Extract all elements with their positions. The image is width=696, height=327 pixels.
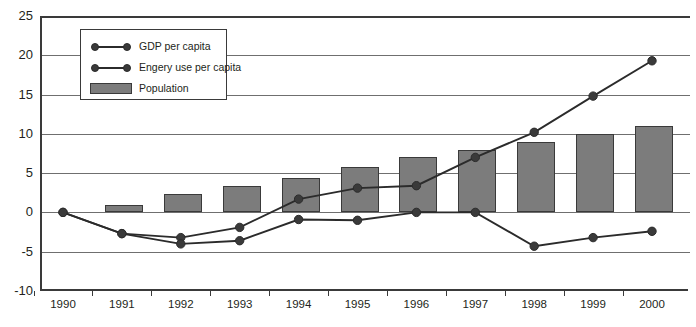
legend-label-population: Population bbox=[139, 83, 189, 94]
bar-1997 bbox=[458, 150, 496, 213]
x-tick-label-1995: 1995 bbox=[328, 298, 388, 310]
x-tick-label-1992: 1992 bbox=[151, 298, 211, 310]
bar-2000 bbox=[635, 126, 673, 212]
line-marker-icon bbox=[90, 62, 132, 73]
bar-1996 bbox=[399, 157, 437, 213]
bar-1998 bbox=[517, 142, 555, 213]
x-tick-label-1994: 1994 bbox=[269, 298, 329, 310]
gridline bbox=[42, 212, 690, 213]
y-tick-label: 10 bbox=[0, 127, 33, 140]
legend-item-population: Population bbox=[81, 78, 226, 99]
x-tick bbox=[505, 291, 506, 296]
y-tick-label: 20 bbox=[0, 48, 33, 61]
y-tick-label: 0 bbox=[0, 205, 33, 218]
x-tick bbox=[92, 291, 93, 296]
x-tick bbox=[446, 291, 447, 296]
y-tick-label: -5 bbox=[0, 245, 33, 258]
legend-label-gdp-per-capita: GDP per capita bbox=[139, 41, 211, 52]
y-tick-label: -10 bbox=[0, 284, 33, 297]
y-tick-label: 5 bbox=[0, 166, 33, 179]
bar-1993 bbox=[223, 186, 261, 213]
y-tick-label: 15 bbox=[0, 88, 33, 101]
bar-1992 bbox=[164, 194, 202, 212]
x-tick-label-1993: 1993 bbox=[210, 298, 270, 310]
x-tick-label-2000: 2000 bbox=[622, 298, 682, 310]
x-tick-label-1999: 1999 bbox=[563, 298, 623, 310]
chart-legend: GDP per capita Engery use per capita Pop… bbox=[80, 29, 227, 100]
x-tick bbox=[387, 291, 388, 296]
filled-rect-icon bbox=[90, 83, 132, 94]
x-tick-label-1998: 1998 bbox=[504, 298, 564, 310]
bar-1995 bbox=[341, 167, 379, 213]
gridline bbox=[42, 252, 690, 253]
x-tick bbox=[34, 291, 35, 296]
gridline bbox=[42, 16, 690, 18]
x-tick-label-1997: 1997 bbox=[445, 298, 505, 310]
bar-1999 bbox=[576, 134, 614, 213]
x-tick-label-1991: 1991 bbox=[92, 298, 152, 310]
bar-1991 bbox=[105, 205, 143, 213]
x-tick bbox=[210, 291, 211, 296]
y-tick-label: 25 bbox=[0, 9, 33, 22]
x-tick bbox=[328, 291, 329, 296]
x-tick bbox=[623, 291, 624, 296]
x-tick-label-1990: 1990 bbox=[33, 298, 93, 310]
chart-container: 2520151050-5-10 199019911992199319941995… bbox=[0, 0, 696, 327]
x-tick bbox=[151, 291, 152, 296]
x-tick-label-1996: 1996 bbox=[386, 298, 446, 310]
legend-item-energy-use-per-capita: Engery use per capita bbox=[81, 57, 226, 78]
x-tick bbox=[269, 291, 270, 296]
line-marker-icon bbox=[90, 41, 132, 52]
legend-item-gdp-per-capita: GDP per capita bbox=[81, 36, 226, 57]
legend-label-energy-use-per-capita: Engery use per capita bbox=[139, 62, 241, 73]
x-tick bbox=[564, 291, 565, 296]
bar-1994 bbox=[282, 178, 320, 213]
